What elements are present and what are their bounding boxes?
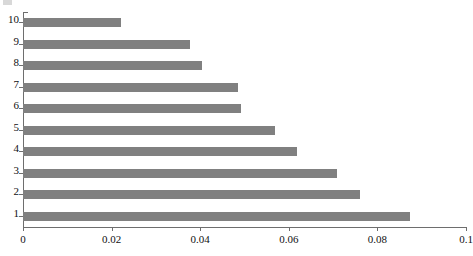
bar — [23, 169, 337, 178]
bar-row: 5 — [23, 120, 466, 142]
y-axis-tick — [19, 22, 23, 23]
y-axis-tick — [19, 194, 23, 195]
y-axis-tick-label: 8 — [14, 57, 20, 68]
bar-row: 9 — [23, 34, 466, 56]
x-axis-tick-label: 0.1 — [459, 233, 473, 245]
bar — [23, 18, 121, 27]
y-axis-tick-label: 2 — [14, 186, 20, 197]
bar-row: 4 — [23, 141, 466, 163]
x-axis-tick-label: 0.02 — [102, 233, 121, 245]
bar — [23, 212, 410, 221]
bar — [23, 147, 297, 156]
x-axis-tick — [200, 227, 201, 231]
y-axis-tick — [19, 44, 23, 45]
y-axis-tick — [19, 65, 23, 66]
bar-series-group: 10987654321 — [23, 12, 466, 227]
bar-row: 2 — [23, 184, 466, 206]
y-axis-tick-label: 5 — [14, 122, 20, 133]
y-axis-tick-label: 10 — [8, 14, 19, 25]
x-axis-tick-label: 0.08 — [368, 233, 387, 245]
x-axis-tick — [289, 227, 290, 231]
bar — [23, 40, 190, 49]
bar-row: 6 — [23, 98, 466, 120]
x-axis-tick — [112, 227, 113, 231]
bar — [23, 61, 202, 70]
y-axis-tick-label: 4 — [14, 143, 20, 154]
y-axis-tick-label: 6 — [14, 100, 20, 111]
y-axis-tick — [19, 108, 23, 109]
y-axis-tick — [19, 151, 23, 152]
bar-row: 8 — [23, 55, 466, 77]
y-axis-tick — [19, 130, 23, 131]
x-axis-tick-label: 0 — [20, 233, 26, 245]
y-axis-tick — [19, 173, 23, 174]
x-axis-tick — [377, 227, 378, 231]
clipped-caption — [96, 250, 396, 255]
bar — [23, 104, 241, 113]
x-axis-tick — [466, 227, 467, 231]
y-axis-tick-label: 7 — [14, 79, 20, 90]
clipped-glyph-artifact — [3, 0, 12, 5]
x-axis-line — [23, 227, 466, 228]
x-axis-tick-label: 0.06 — [279, 233, 298, 245]
y-axis-tick-label: 1 — [14, 208, 20, 219]
x-axis-tick-label: 0.04 — [191, 233, 210, 245]
bar — [23, 126, 275, 135]
y-axis-tick-label: 9 — [14, 36, 20, 47]
bar-row: 7 — [23, 77, 466, 99]
bar-row: 3 — [23, 163, 466, 185]
bar — [23, 190, 360, 199]
x-axis-tick — [23, 227, 24, 231]
bar-row: 1 — [23, 206, 466, 228]
y-axis-tick-label: 3 — [14, 165, 20, 176]
bar — [23, 83, 238, 92]
y-axis-tick — [19, 216, 23, 217]
y-axis-tick — [19, 87, 23, 88]
bar-row: 10 — [23, 12, 466, 34]
